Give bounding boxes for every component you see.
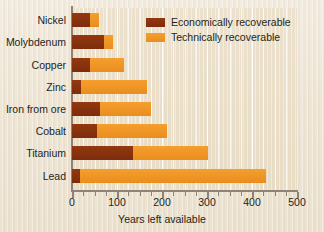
x-axis-tick: [196, 192, 197, 196]
legend-label: Technically recoverable: [171, 31, 280, 43]
bar-segment-technically-recoverable[interactable]: [72, 80, 147, 94]
bar-segment-economically-recoverable[interactable]: [72, 35, 104, 49]
x-axis-tick-label: 500: [288, 196, 306, 208]
category-label: Cobalt: [0, 125, 66, 137]
legend-swatch-icon: [146, 18, 165, 27]
legend-item-technically-recoverable: Technically recoverable: [146, 31, 291, 43]
x-axis-tick-label: 300: [198, 196, 216, 208]
x-axis-tick: [95, 192, 96, 196]
x-axis-tick: [241, 192, 242, 196]
bar-segment-technically-recoverable[interactable]: [72, 169, 266, 183]
bar-segment-economically-recoverable[interactable]: [72, 102, 100, 116]
bar-segment-economically-recoverable[interactable]: [72, 146, 133, 160]
bar-segment-economically-recoverable[interactable]: [72, 80, 81, 94]
x-axis-tick: [83, 192, 84, 196]
x-axis-tick: [151, 192, 152, 196]
x-axis-tick: [128, 192, 129, 196]
gridline: [117, 8, 118, 190]
category-label: Titanium: [0, 147, 66, 159]
chart-figure: 0100200300400500 Years left available Ec…: [0, 0, 324, 232]
x-axis-tick: [263, 192, 264, 196]
x-axis-tick: [185, 192, 186, 196]
legend-label: Economically recoverable: [171, 16, 291, 28]
x-axis-tick: [286, 192, 287, 196]
category-label: Lead: [0, 170, 66, 182]
x-axis-tick-label: 100: [108, 196, 126, 208]
chart-legend: Economically recoverable Technically rec…: [146, 16, 291, 43]
category-label: Nickel: [0, 14, 66, 26]
category-label: Zinc: [0, 81, 66, 93]
x-axis-tick: [173, 192, 174, 196]
legend-swatch-icon: [146, 33, 165, 42]
y-axis-line: [71, 6, 73, 192]
x-axis-tick-label: 400: [243, 196, 261, 208]
x-axis-tick-label: 200: [153, 196, 171, 208]
x-axis-title: Years left available: [0, 213, 324, 225]
x-axis-tick-label: 0: [69, 196, 75, 208]
gridline: [140, 8, 141, 190]
x-axis-tick: [140, 192, 141, 196]
legend-item-economically-recoverable: Economically recoverable: [146, 16, 291, 28]
bar-segment-economically-recoverable[interactable]: [72, 13, 90, 27]
category-label: Iron from ore: [0, 103, 66, 115]
bar-segment-economically-recoverable[interactable]: [72, 124, 97, 138]
bar-segment-economically-recoverable[interactable]: [72, 169, 80, 183]
x-axis-tick: [275, 192, 276, 196]
bar-segment-economically-recoverable[interactable]: [72, 58, 90, 72]
category-label: Copper: [0, 59, 66, 71]
gridline: [128, 8, 129, 190]
x-axis-tick: [218, 192, 219, 196]
category-label: Molybdenum: [0, 36, 66, 48]
x-axis-tick: [230, 192, 231, 196]
x-axis-tick: [106, 192, 107, 196]
